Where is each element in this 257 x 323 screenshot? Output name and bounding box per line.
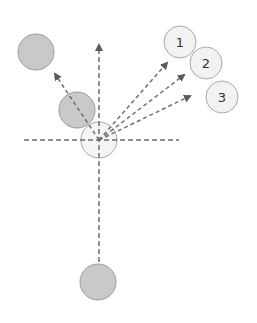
arrow-to-1 xyxy=(99,63,167,140)
gray-circle-top-left xyxy=(18,34,54,70)
numbered-circles: 123 xyxy=(164,26,238,113)
circle-number-label: 2 xyxy=(202,56,210,71)
numbered-circle-1: 1 xyxy=(164,26,196,58)
numbered-circle-3: 3 xyxy=(206,81,238,113)
diagram-canvas: 123 xyxy=(0,0,257,323)
gray-circle-bottom xyxy=(80,264,116,300)
numbered-circle-2: 2 xyxy=(190,47,222,79)
arrow-to-2 xyxy=(99,75,184,140)
gray-circle-mid-left xyxy=(59,92,95,128)
circle-number-label: 3 xyxy=(218,90,226,105)
arrow-to-3 xyxy=(99,96,190,140)
circle-number-label: 1 xyxy=(176,35,184,50)
gray-circles xyxy=(18,34,116,300)
